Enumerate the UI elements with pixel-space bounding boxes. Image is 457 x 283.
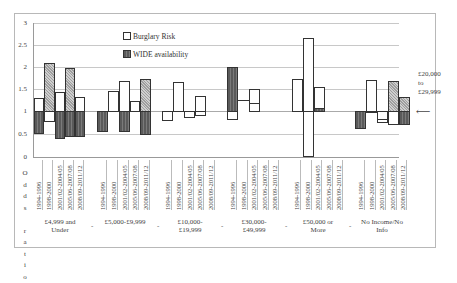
bar-wide xyxy=(399,111,410,125)
legend-item-wide: WIDE availability xyxy=(123,50,188,59)
x-tick-label: 2001/02-2004/05 xyxy=(378,160,386,210)
reference-line2: to xyxy=(418,79,441,88)
group-label-line: Under xyxy=(33,226,87,234)
group-label-line: £30,000- xyxy=(227,218,281,226)
ytick: 0.5 xyxy=(7,130,27,138)
bar-burglary xyxy=(162,111,173,121)
group-label: £10,000-£19,999 xyxy=(163,218,217,234)
reference-line3: £29,999 xyxy=(418,88,441,97)
x-tick-label: 2008/09-2011/12 xyxy=(76,160,84,210)
bar-burglary xyxy=(195,111,206,116)
legend-label: Burglary Risk xyxy=(133,32,175,41)
bar-burglary xyxy=(227,111,238,120)
bar-burglary xyxy=(303,111,314,157)
group-label-line: No Income/No xyxy=(353,218,411,226)
bar-burglary xyxy=(249,103,260,112)
bar-wide-hatched xyxy=(388,81,399,112)
x-tick-label: 2008/09-2011/12 xyxy=(271,160,279,210)
group-separator: - xyxy=(285,222,287,230)
bar-burglary xyxy=(75,97,85,112)
x-tick-label: 1994-1996 xyxy=(293,160,301,210)
bar-burglary xyxy=(55,92,65,112)
bar-burglary xyxy=(130,101,140,112)
plot-area: 3 2.5 2 1.5 1 0.5 0 Burglary Risk WIDE a… xyxy=(33,23,399,157)
group-separator: - xyxy=(349,222,351,230)
bar-wide xyxy=(75,111,85,137)
bar-wide-hatched xyxy=(44,63,55,112)
gridline-0.5 xyxy=(33,134,399,135)
bar-wide xyxy=(355,111,366,129)
ylabel-char: t xyxy=(21,249,29,261)
x-tick-label: 2005/06-2007/08 xyxy=(66,160,74,210)
ylabel-char: r xyxy=(21,226,29,238)
bar-burglary-line xyxy=(238,100,249,112)
x-tick-label: 2001/02-2004/05 xyxy=(314,160,322,210)
group-label: £50,000 orMore xyxy=(291,218,345,234)
ylabel-char: s xyxy=(21,203,29,215)
legend-swatch-plain xyxy=(123,32,131,40)
group-label: £5,000-£9,999 xyxy=(96,218,154,226)
x-tick-label: 2005/06-2007/08 xyxy=(325,160,333,210)
group-label-line: £49,999 xyxy=(227,226,281,234)
bar-wide xyxy=(65,111,75,137)
gridline-2 xyxy=(33,67,399,68)
gridline-3 xyxy=(33,23,399,24)
ylabel-char: d xyxy=(21,191,29,203)
ytick: 3 xyxy=(7,19,27,27)
bar-wide-hatched xyxy=(399,97,410,112)
legend-item-burglary: Burglary Risk xyxy=(123,32,175,41)
x-tick-label: 2008/09-2011/12 xyxy=(399,160,407,210)
gridline-1 xyxy=(33,111,399,112)
group-separator: - xyxy=(91,222,93,230)
ytick: 2 xyxy=(7,63,27,71)
group-label-line: £4,999 and xyxy=(33,218,87,226)
x-tick-label: 2001/02-2004/05 xyxy=(250,160,258,210)
x-tick-label: 2005/06-2007/08 xyxy=(389,160,397,210)
bar-wide-outline xyxy=(377,111,388,120)
x-tick-label: 2008/09-2011/12 xyxy=(335,160,343,210)
bar-wide xyxy=(119,111,130,132)
bar-burglary xyxy=(34,98,44,112)
y-axis-label: O d d s r a t i o xyxy=(21,168,29,283)
group-separator: - xyxy=(221,222,223,230)
bar-burglary xyxy=(119,81,130,112)
group-label-line: £5,000-£9,999 xyxy=(96,218,154,226)
bar-burglary-hatched xyxy=(65,68,75,112)
bar-burglary xyxy=(292,79,303,112)
group-label-line: £10,000- xyxy=(163,218,217,226)
ytick: 0 xyxy=(7,153,27,161)
bar-burglary xyxy=(366,80,377,112)
x-tick-label: 1998-2000 xyxy=(175,160,183,210)
x-tick-label: 2005/06-2007/08 xyxy=(131,160,139,210)
bar-burglary xyxy=(44,111,55,122)
gridline-0 xyxy=(33,157,399,158)
gridline-1.5 xyxy=(33,89,399,90)
x-tick-label: 1994-1996 xyxy=(99,160,107,210)
gridline-2.5 xyxy=(33,45,399,46)
bar-burglary xyxy=(184,111,195,118)
group-separator: - xyxy=(157,222,159,230)
x-tick-label: 1998-2000 xyxy=(368,160,376,210)
y-axis xyxy=(33,23,34,157)
bar-burglary xyxy=(108,91,119,112)
arrow-left-icon: ⟵ xyxy=(416,106,430,117)
x-tick-label: 2001/02-2004/05 xyxy=(186,160,194,210)
x-tick-label: 1998-2000 xyxy=(304,160,312,210)
ylabel-char: d xyxy=(21,180,29,192)
group-label-line: £50,000 or xyxy=(291,218,345,226)
x-tick-label: 1998-2000 xyxy=(110,160,118,210)
ytick: 1.5 xyxy=(7,85,27,93)
x-tick-label: 2005/06-2007/08 xyxy=(196,160,204,210)
ylabel-gap xyxy=(21,214,29,226)
x-tick-label: 2008/09-2011/12 xyxy=(142,160,150,210)
x-tick-label: 2008/09-2011/12 xyxy=(207,160,215,210)
ylabel-char: i xyxy=(21,260,29,272)
bar-wide xyxy=(314,108,325,112)
legend-swatch-dark xyxy=(123,50,131,58)
x-tick-label: 1994-1996 xyxy=(164,160,172,210)
x-axis-labels: 1994-1996 1998-2000 2001/02-2004/05 2005… xyxy=(33,160,399,245)
x-tick-label: 1998-2000 xyxy=(240,160,248,210)
x-tick-label: 2001/02-2004/05 xyxy=(56,160,64,210)
bar-wide xyxy=(55,111,65,139)
group-label-line: More xyxy=(291,226,345,234)
